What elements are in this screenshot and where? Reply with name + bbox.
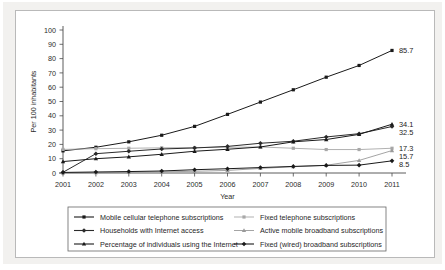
x-axis-title: Year xyxy=(220,192,235,201)
y-tick-label: 10 xyxy=(48,154,56,163)
y-tick-label: 40 xyxy=(48,111,56,120)
data-point-marker xyxy=(358,64,361,67)
y-tick-label: 100 xyxy=(44,26,56,35)
data-point-marker xyxy=(226,113,229,116)
x-tick-label: 2009 xyxy=(318,180,334,189)
legend-label: Active mobile broadband subscriptions xyxy=(260,226,383,235)
x-tick-label: 2004 xyxy=(154,180,170,189)
legend-label: Fixed telephone subscriptions xyxy=(260,213,355,222)
data-point-marker xyxy=(358,148,361,151)
x-tick-label: 2010 xyxy=(351,180,367,189)
data-point-marker xyxy=(94,151,99,156)
data-point-marker xyxy=(160,134,163,137)
data-point-marker xyxy=(242,242,247,247)
y-tick-label: 30 xyxy=(48,126,56,135)
data-point-marker xyxy=(82,228,87,233)
data-point-marker xyxy=(357,163,362,168)
legend-item[interactable]: Mobile cellular telephone subscriptions xyxy=(74,213,224,222)
series-end-value-label: 32.5 xyxy=(399,128,413,137)
legend-item[interactable]: Fixed telephone subscriptions xyxy=(234,213,355,222)
y-tick-label: 70 xyxy=(48,69,56,78)
legend-label: Mobile cellular telephone subscriptions xyxy=(100,213,224,222)
series-4 xyxy=(61,122,394,163)
series-group xyxy=(61,49,395,175)
data-point-marker xyxy=(242,215,245,218)
legend-item[interactable]: Fixed (wired) broadband subscriptions xyxy=(234,240,382,249)
x-tick-label: 2003 xyxy=(121,180,137,189)
x-tick-label: 2006 xyxy=(220,180,236,189)
data-point-marker xyxy=(325,148,328,151)
data-point-marker xyxy=(324,163,329,168)
line-chart: 0102030405060708090100 20012002200320042… xyxy=(16,11,436,259)
series-end-value-label: 8.5 xyxy=(399,160,409,169)
data-point-marker xyxy=(259,100,262,103)
data-point-marker xyxy=(292,88,295,91)
chart-panel: 0102030405060708090100 20012002200320042… xyxy=(15,10,435,258)
y-tick-label: 60 xyxy=(48,83,56,92)
y-tick-label: 80 xyxy=(48,54,56,63)
end-value-labels: 85.734.132.517.315.78.5 xyxy=(399,46,413,169)
legend: Mobile cellular telephone subscriptionsF… xyxy=(74,213,383,249)
legend-label: Percentage of individuals using the Inte… xyxy=(100,240,238,249)
x-axis-tick-labels: 2001200220032004200520062007200820092010… xyxy=(55,180,400,189)
legend-label: Households with Internet access xyxy=(100,226,204,235)
x-tick-label: 2005 xyxy=(187,180,203,189)
y-tick-label: 90 xyxy=(48,40,56,49)
x-axis-ticks xyxy=(63,173,392,177)
data-point-marker xyxy=(193,125,196,128)
data-point-marker xyxy=(159,147,164,152)
data-point-marker xyxy=(94,147,97,150)
chart-svg: 0102030405060708090100 20012002200320042… xyxy=(16,11,436,259)
data-point-marker xyxy=(325,76,328,79)
data-point-marker xyxy=(127,140,130,143)
legend-label: Fixed (wired) broadband subscriptions xyxy=(260,240,382,249)
series-5 xyxy=(61,159,395,175)
x-tick-label: 2008 xyxy=(285,180,301,189)
y-axis-title: Per 100 inhabitants xyxy=(29,70,38,132)
data-point-marker xyxy=(82,215,85,218)
data-point-marker xyxy=(390,49,393,52)
data-point-marker xyxy=(61,148,64,151)
data-point-marker xyxy=(390,122,394,126)
data-point-marker xyxy=(127,149,132,154)
legend-item[interactable]: Households with Internet access xyxy=(74,226,204,235)
x-tick-label: 2001 xyxy=(55,180,71,189)
y-tick-label: 50 xyxy=(48,97,56,106)
x-tick-label: 2002 xyxy=(88,180,104,189)
series-line xyxy=(63,124,392,161)
data-point-marker xyxy=(292,147,295,150)
legend-item[interactable]: Percentage of individuals using the Inte… xyxy=(74,240,238,249)
y-tick-label: 0 xyxy=(52,169,56,178)
y-tick-label: 20 xyxy=(48,140,56,149)
y-axis-tick-labels: 0102030405060708090100 xyxy=(44,26,56,178)
screenshot-root: 0102030405060708090100 20012002200320042… xyxy=(0,0,445,270)
series-end-value-label: 85.7 xyxy=(399,46,413,55)
x-tick-label: 2007 xyxy=(252,180,268,189)
legend-item[interactable]: Active mobile broadband subscriptions xyxy=(234,226,383,235)
page-frame: 0102030405060708090100 20012002200320042… xyxy=(3,2,442,264)
data-point-marker xyxy=(390,159,395,164)
x-tick-label: 2011 xyxy=(384,180,399,189)
